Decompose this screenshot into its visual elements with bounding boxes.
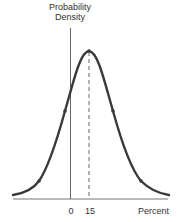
x-tick-mean: 15: [85, 206, 95, 216]
x-tick-zero: 0: [68, 206, 73, 216]
left-inflection-point: [63, 109, 67, 113]
y-axis-label-line2: Density: [55, 12, 85, 22]
normal-distribution-chart: [0, 0, 181, 222]
density-curve: [13, 51, 169, 195]
y-axis-label-line1: Probability: [49, 2, 91, 12]
right-tail-point: [139, 179, 143, 183]
right-inflection-point: [111, 109, 115, 113]
peak-point: [87, 49, 91, 53]
left-tail-point: [37, 179, 41, 183]
x-axis-label: Percent: [138, 206, 169, 216]
